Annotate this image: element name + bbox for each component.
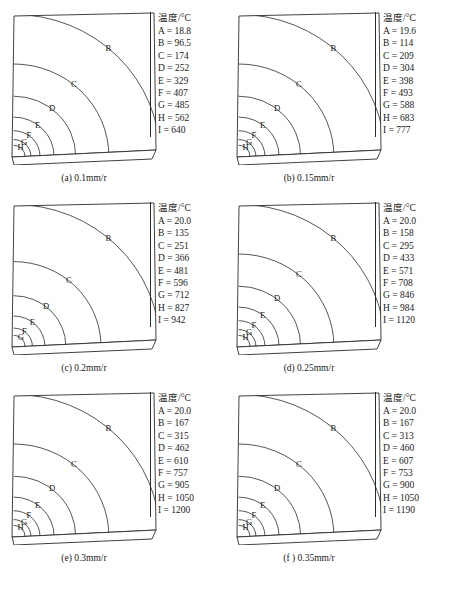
workpiece-face bbox=[237, 13, 381, 157]
workpiece-face bbox=[237, 393, 381, 537]
legend-entry-e: E = 329 bbox=[158, 75, 222, 87]
contour-label-d: D bbox=[274, 103, 280, 113]
plot-area-c: BCDEFG bbox=[8, 200, 158, 355]
contour-label-h: H bbox=[243, 332, 249, 342]
contour-label-e: E bbox=[260, 500, 265, 510]
subplot-a: BCDEFGH温度/°CA = 18.8B = 96.5C = 174D = 2… bbox=[0, 4, 225, 200]
subplot-b: BCDEFGH温度/°CA = 19.6B = 114C = 209D = 30… bbox=[225, 4, 450, 200]
legend-entry-h: H = 827 bbox=[158, 302, 222, 314]
contour-label-c: C bbox=[296, 269, 302, 279]
legend-entry-g: G = 900 bbox=[383, 479, 447, 491]
temperature-contour-figure: BCDEFGH温度/°CA = 18.8B = 96.5C = 174D = 2… bbox=[0, 0, 450, 602]
contour-label-f: F bbox=[26, 130, 31, 140]
workpiece-face bbox=[12, 13, 156, 157]
legend-entry-c: C = 251 bbox=[158, 240, 222, 252]
contour-label-h: H bbox=[243, 142, 249, 152]
legend-title: 温度/°C bbox=[158, 12, 222, 24]
legend-entry-d: D = 366 bbox=[158, 252, 222, 264]
subplot-caption-e: (e) 0.3mm/r bbox=[0, 552, 168, 564]
legend-entry-b: B = 114 bbox=[383, 37, 447, 49]
legend-entry-a: A = 20.0 bbox=[158, 215, 222, 227]
legend-entry-list: A = 20.0B = 167C = 315D = 462E = 610F = … bbox=[158, 405, 222, 517]
legend-entry-g: G = 846 bbox=[383, 289, 447, 301]
plot-area-b: BCDEFGH bbox=[233, 10, 383, 165]
legend-entry-d: D = 460 bbox=[383, 442, 447, 454]
plot-area-a: BCDEFGH bbox=[8, 10, 158, 165]
contour-label-b: B bbox=[331, 233, 337, 243]
legend-entry-e: E = 481 bbox=[158, 265, 222, 277]
legend-entry-i: I = 1200 bbox=[158, 504, 222, 516]
workpiece-contour-plot: BCDEFGH bbox=[233, 10, 383, 165]
legend-entry-c: C = 209 bbox=[383, 50, 447, 62]
contour-label-b: B bbox=[106, 43, 112, 53]
legend-entry-i: I = 1120 bbox=[383, 314, 447, 326]
legend-entry-h: H = 1050 bbox=[158, 492, 222, 504]
subplot-caption-b: (b) 0.15mm/r bbox=[225, 172, 393, 184]
legend-f: 温度/°CA = 20.0B = 167C = 313D = 460E = 60… bbox=[375, 392, 447, 517]
contour-label-c: C bbox=[66, 275, 72, 285]
legend-entry-c: C = 313 bbox=[383, 430, 447, 442]
legend-entry-e: E = 610 bbox=[158, 455, 222, 467]
legend-title: 温度/°C bbox=[158, 392, 222, 404]
legend-entry-list: A = 18.8B = 96.5C = 174D = 252E = 329F =… bbox=[158, 25, 222, 137]
legend-entry-g: G = 905 bbox=[158, 479, 222, 491]
plot-area-e: BCDEFGH bbox=[8, 390, 158, 545]
legend-entry-list: A = 19.6B = 114C = 209D = 304E = 398F = … bbox=[383, 25, 447, 137]
legend-entry-a: A = 18.8 bbox=[158, 25, 222, 37]
contour-label-b: B bbox=[106, 423, 112, 433]
contour-label-d: D bbox=[49, 103, 55, 113]
contour-label-c: C bbox=[71, 459, 77, 469]
workpiece-contour-plot: BCDEFGH bbox=[233, 390, 383, 545]
contour-label-g: G bbox=[18, 332, 24, 342]
legend-entry-g: G = 712 bbox=[158, 289, 222, 301]
contour-label-f: F bbox=[251, 130, 256, 140]
legend-entry-c: C = 174 bbox=[158, 50, 222, 62]
contour-label-h: H bbox=[18, 522, 24, 532]
subplot-caption-f: (f ) 0.35mm/r bbox=[225, 552, 393, 564]
legend-d: 温度/°CA = 20.0B = 158C = 295D = 433E = 57… bbox=[375, 202, 447, 327]
contour-label-d: D bbox=[43, 301, 49, 311]
legend-title: 温度/°C bbox=[158, 202, 222, 214]
legend-entry-b: B = 158 bbox=[383, 227, 447, 239]
legend-entry-e: E = 398 bbox=[383, 75, 447, 87]
workpiece-face bbox=[12, 393, 156, 537]
legend-entry-f: F = 407 bbox=[158, 87, 222, 99]
legend-title: 温度/°C bbox=[383, 202, 447, 214]
workpiece-contour-plot: BCDEFGH bbox=[8, 10, 158, 165]
legend-entry-c: C = 315 bbox=[158, 430, 222, 442]
subplot-d: BCDEFGH温度/°CA = 20.0B = 158C = 295D = 43… bbox=[225, 194, 450, 390]
legend-c: 温度/°CA = 20.0B = 135C = 251D = 366E = 48… bbox=[150, 202, 222, 327]
contour-label-h: H bbox=[18, 142, 24, 152]
workpiece-contour-plot: BCDEFG bbox=[8, 200, 158, 355]
workpiece-face bbox=[237, 203, 381, 347]
legend-entry-list: A = 20.0B = 158C = 295D = 433E = 571F = … bbox=[383, 215, 447, 327]
legend-e: 温度/°CA = 20.0B = 167C = 315D = 462E = 61… bbox=[150, 392, 222, 517]
legend-entry-h: H = 683 bbox=[383, 112, 447, 124]
legend-b: 温度/°CA = 19.6B = 114C = 209D = 304E = 39… bbox=[375, 12, 447, 137]
contour-label-e: E bbox=[35, 500, 40, 510]
legend-title: 温度/°C bbox=[383, 392, 447, 404]
legend-entry-f: F = 708 bbox=[383, 277, 447, 289]
contour-label-d: D bbox=[274, 293, 280, 303]
contour-label-c: C bbox=[296, 459, 302, 469]
contour-label-d: D bbox=[274, 483, 280, 493]
legend-entry-i: I = 1190 bbox=[383, 504, 447, 516]
legend-entry-h: H = 562 bbox=[158, 112, 222, 124]
contour-label-b: B bbox=[331, 423, 337, 433]
workpiece-contour-plot: BCDEFGH bbox=[233, 200, 383, 355]
contour-label-b: B bbox=[106, 233, 112, 243]
plot-area-d: BCDEFGH bbox=[233, 200, 383, 355]
subplot-f: BCDEFGH温度/°CA = 20.0B = 167C = 313D = 46… bbox=[225, 384, 450, 580]
legend-entry-list: A = 20.0B = 167C = 313D = 460E = 607F = … bbox=[383, 405, 447, 517]
legend-entry-f: F = 596 bbox=[158, 277, 222, 289]
legend-entry-g: G = 485 bbox=[158, 99, 222, 111]
contour-label-e: E bbox=[35, 120, 40, 130]
legend-title: 温度/°C bbox=[383, 12, 447, 24]
subplot-c: BCDEFG温度/°CA = 20.0B = 135C = 251D = 366… bbox=[0, 194, 225, 390]
legend-entry-f: F = 753 bbox=[383, 467, 447, 479]
legend-entry-b: B = 167 bbox=[383, 417, 447, 429]
contour-label-c: C bbox=[296, 79, 302, 89]
subplot-caption-d: (d) 0.25mm/r bbox=[225, 362, 393, 374]
contour-label-e: E bbox=[260, 120, 265, 130]
legend-entry-list: A = 20.0B = 135C = 251D = 366E = 481F = … bbox=[158, 215, 222, 327]
